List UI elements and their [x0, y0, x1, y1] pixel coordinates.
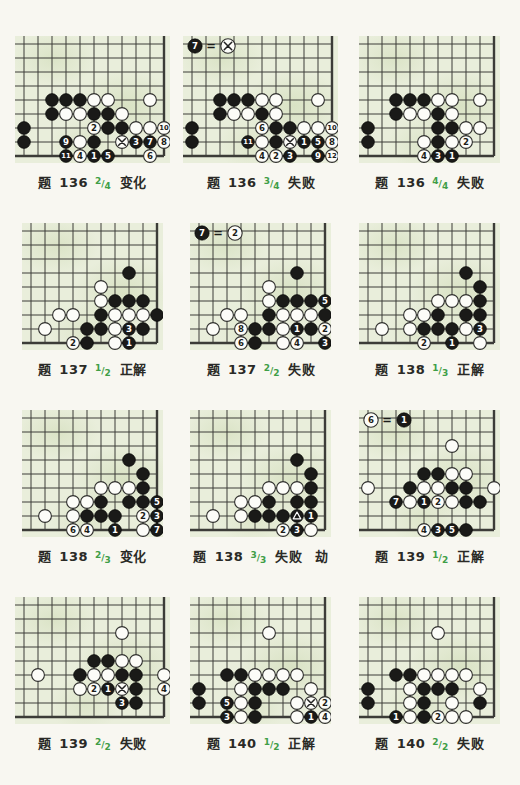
white-stone: [52, 309, 65, 322]
black-stone: [263, 510, 276, 523]
white-stone: [235, 711, 248, 724]
black-stone: 5: [150, 496, 162, 509]
svg-text:10: 10: [159, 124, 169, 132]
go-board: 123: [190, 410, 331, 537]
svg-text:1: 1: [126, 338, 132, 348]
black-stone: [460, 524, 473, 537]
svg-text:=: =: [214, 226, 224, 240]
black-stone: 3: [129, 136, 142, 149]
svg-text:9: 9: [315, 151, 321, 161]
white-stone: 8: [157, 136, 169, 149]
white-stone: [362, 482, 375, 495]
black-stone: [136, 323, 149, 336]
black-stone: 7: [143, 136, 156, 149]
svg-text:2: 2: [232, 228, 238, 238]
white-stone: [207, 323, 220, 336]
svg-text:5: 5: [105, 151, 111, 161]
white-stone: 12: [326, 150, 338, 163]
black-stone: [235, 669, 248, 682]
diagram-caption: 题137 2/2 失败: [207, 359, 316, 378]
black-stone: 11: [59, 150, 72, 163]
white-stone: [235, 697, 248, 710]
white-stone: [66, 496, 79, 509]
white-stone: [235, 683, 248, 696]
white-stone: [298, 122, 311, 135]
white-stone: [446, 496, 459, 509]
fraction-numerator: 1: [264, 737, 270, 747]
white-stone: [87, 669, 100, 682]
black-stone: [136, 482, 149, 495]
white-stone: [404, 323, 417, 336]
black-stone: [418, 323, 431, 336]
white-stone: [291, 711, 304, 724]
black-stone: [460, 482, 473, 495]
white-stone: 8: [326, 136, 338, 149]
white-stone: [446, 711, 459, 724]
white-stone: 4: [319, 711, 331, 724]
black-stone: [108, 510, 121, 523]
go-diagram: 2431 题136 4/4 失败: [359, 36, 500, 191]
black-stone: [87, 108, 100, 121]
white-stone: [277, 482, 290, 495]
svg-text:2: 2: [322, 324, 328, 334]
white-stone: [66, 510, 79, 523]
svg-text:2: 2: [70, 338, 76, 348]
svg-text:3: 3: [477, 324, 483, 334]
black-stone: 1: [446, 337, 459, 350]
fraction-denominator: 4: [273, 181, 279, 191]
black-stone: [45, 108, 58, 121]
white-stone: [291, 669, 304, 682]
black-stone: 9: [59, 136, 72, 149]
black-stone: [136, 468, 149, 481]
caption-variation-fraction: 1/2: [432, 553, 448, 563]
black-stone: [418, 711, 431, 724]
white-stone: [59, 108, 72, 121]
white-stone: 4: [418, 524, 431, 537]
black-stone: 7: [188, 39, 202, 53]
caption-result: 失败: [275, 546, 302, 565]
black-stone: [390, 669, 403, 682]
caption-variation-fraction: 2/3: [95, 553, 111, 563]
white-stone: [94, 281, 107, 294]
svg-text:3: 3: [435, 151, 441, 161]
white-stone: [418, 309, 431, 322]
caption-variation-fraction: 2/2: [264, 366, 280, 376]
black-stone: 1: [390, 711, 403, 724]
go-diagram: 12 题140 2/2 失败: [359, 597, 500, 752]
white-stone: [115, 627, 128, 640]
x-marker-stone: [284, 136, 297, 149]
white-stone: [136, 309, 149, 322]
white-stone: 6: [364, 413, 378, 427]
go-board: 5236417: [22, 410, 163, 537]
white-stone: [228, 108, 241, 121]
white-stone: [136, 524, 149, 537]
diagram-caption: 题136 3/4 失败: [207, 172, 316, 191]
black-stone: [129, 697, 142, 710]
fraction-numerator: 3: [250, 550, 256, 560]
black-stone: 1: [305, 711, 318, 724]
white-stone: [235, 510, 248, 523]
black-stone: 1: [108, 524, 121, 537]
white-stone: 2: [87, 683, 100, 696]
white-stone: [418, 108, 431, 121]
caption-problem-word: 题: [193, 546, 207, 565]
black-stone: 1: [446, 150, 459, 163]
black-stone: [80, 323, 93, 336]
caption-problem-number: 136: [59, 175, 88, 190]
svg-text:4: 4: [259, 151, 265, 161]
go-diagram: 2109378114156 题136 2/4 变化: [15, 36, 170, 191]
black-stone: [214, 94, 227, 107]
white-stone: [277, 669, 290, 682]
white-stone: [73, 108, 86, 121]
svg-text:2: 2: [421, 338, 427, 348]
fraction-denominator: 2: [105, 742, 111, 752]
white-stone: [87, 94, 100, 107]
fraction-denominator: 2: [273, 742, 279, 752]
svg-text:2: 2: [91, 123, 97, 133]
caption-problem-word: 题: [375, 172, 389, 191]
white-stone: 4: [157, 683, 169, 696]
black-stone: [432, 468, 445, 481]
svg-text:2: 2: [435, 712, 441, 722]
fraction-denominator: 4: [442, 181, 448, 191]
black-stone: [305, 496, 318, 509]
